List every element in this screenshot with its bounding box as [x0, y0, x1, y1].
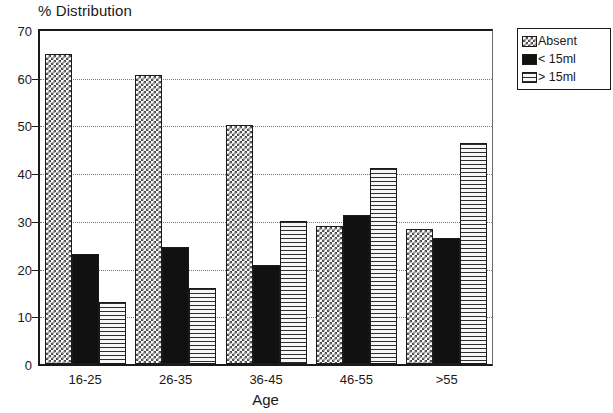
x-axis-title: Age — [38, 391, 493, 408]
bar-chart-figure: % Distribution 010203040506070 16-2526-3… — [0, 0, 613, 413]
legend-swatch-icon — [522, 36, 537, 47]
legend-swatch-icon — [522, 72, 537, 83]
legend: Absent< 15ml> 15ml — [517, 28, 611, 90]
y-tick-label: 20 — [2, 262, 32, 277]
y-tick-label: 70 — [2, 24, 32, 39]
x-tick-label: 26-35 — [159, 372, 192, 387]
y-tick-mark — [32, 174, 38, 175]
legend-label: > 15ml — [538, 70, 576, 84]
legend-label: Absent — [538, 34, 577, 48]
y-tick-mark — [32, 317, 38, 318]
x-tick-label: >55 — [436, 372, 458, 387]
legend-label: < 15ml — [538, 52, 576, 66]
x-tick-label: 36-45 — [249, 372, 282, 387]
x-tick-label: 16-25 — [69, 372, 102, 387]
y-tick-mark — [32, 222, 38, 223]
y-tick-label: 50 — [2, 119, 32, 134]
y-tick-mark — [32, 270, 38, 271]
legend-swatch-icon — [522, 54, 537, 65]
y-tick-label: 40 — [2, 167, 32, 182]
y-tick-label: 30 — [2, 214, 32, 229]
y-tick-label: 10 — [2, 310, 32, 325]
y-tick-mark — [32, 126, 38, 127]
x-tick-label: 46-55 — [340, 372, 373, 387]
y-tick-label: 60 — [2, 71, 32, 86]
legend-item: Absent — [522, 32, 607, 50]
y-tick-mark — [32, 79, 38, 80]
y-tick-label: 0 — [2, 358, 32, 373]
legend-item: > 15ml — [522, 68, 607, 86]
legend-item: < 15ml — [522, 50, 607, 68]
